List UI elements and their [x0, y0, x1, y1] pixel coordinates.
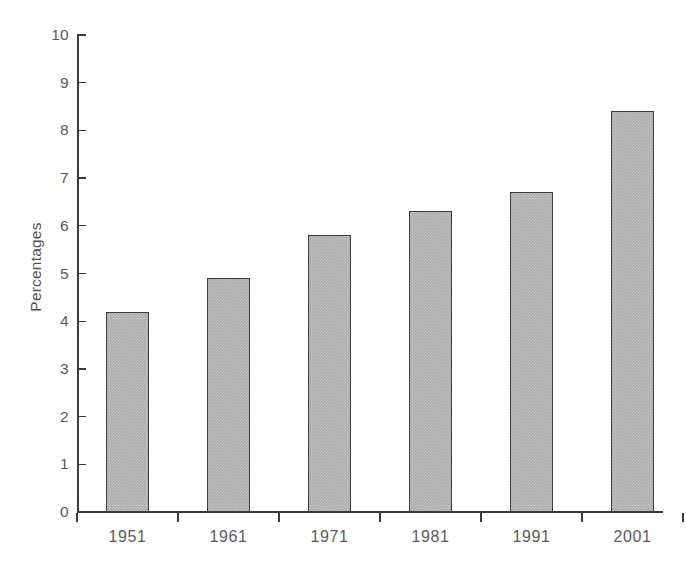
bar-chart: Percentages 012345678910 195119611971198…	[0, 0, 686, 571]
x-axis-tick	[581, 513, 582, 522]
y-axis-tick-label: 2	[33, 408, 69, 426]
x-axis-tick	[379, 513, 380, 522]
x-axis-tick	[177, 513, 178, 522]
y-axis-tick-label-text: 5	[39, 265, 69, 283]
y-axis-tick-label-text: 3	[39, 360, 69, 378]
bar	[510, 192, 553, 512]
y-axis-tick-label-text: 8	[39, 121, 69, 139]
y-axis-tick-label-text: 4	[39, 312, 69, 330]
x-axis-tick-label: 1951	[77, 528, 178, 546]
y-axis-tick	[78, 130, 86, 131]
bar	[207, 278, 250, 512]
y-axis-tick-label-text: 9	[39, 74, 69, 92]
y-axis-tick-label-text: 7	[39, 169, 69, 187]
y-axis-tick-label: 10	[33, 26, 69, 44]
y-axis-tick-label: 1	[33, 455, 69, 473]
bar	[106, 312, 149, 512]
x-axis-tick	[480, 513, 481, 522]
y-axis-tick	[78, 34, 86, 35]
y-axis-tick	[78, 511, 86, 512]
y-axis-tick-label: 4	[33, 312, 69, 330]
x-axis-tick	[76, 513, 77, 522]
y-axis-tick	[78, 82, 86, 83]
y-axis-tick-label-text: 6	[39, 217, 69, 235]
x-axis-tick-label: 1991	[481, 528, 582, 546]
x-axis-tick-label: 1961	[178, 528, 279, 546]
y-axis-tick-label: 6	[33, 217, 69, 235]
y-axis-tick	[78, 225, 86, 226]
bar	[409, 211, 452, 512]
x-axis-tick-label: 1981	[380, 528, 481, 546]
x-axis-tick	[278, 513, 279, 522]
x-axis-tick-label: 1971	[279, 528, 380, 546]
y-axis-tick	[78, 416, 86, 417]
y-axis-tick-label: 7	[33, 169, 69, 187]
y-axis-tick	[78, 273, 86, 274]
y-axis-tick-label: 3	[33, 360, 69, 378]
y-axis-tick	[78, 177, 86, 178]
y-axis-tick-label: 9	[33, 74, 69, 92]
y-axis-tick-label: 5	[33, 265, 69, 283]
y-axis-tick	[78, 321, 86, 322]
y-axis-tick-label-text: 0	[39, 503, 69, 521]
y-axis-tick-label-text: 2	[39, 408, 69, 426]
y-axis-tick-label-text: 1	[39, 455, 69, 473]
bar	[308, 235, 351, 512]
x-axis-line	[77, 511, 663, 513]
y-axis-tick-label-text: 10	[39, 26, 69, 44]
y-axis-tick	[78, 464, 86, 465]
y-axis-tick-label: 8	[33, 121, 69, 139]
y-axis-tick-label: 0	[33, 503, 69, 521]
x-axis-tick-label: 2001	[582, 528, 683, 546]
bar	[611, 111, 654, 512]
x-axis-tick	[682, 513, 683, 522]
y-axis-tick	[78, 368, 86, 369]
